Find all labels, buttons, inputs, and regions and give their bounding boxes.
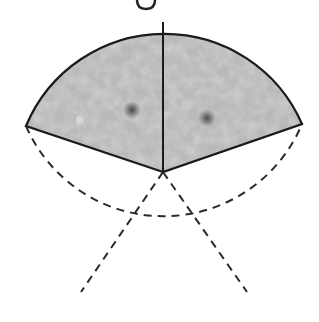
dark-spot-left: [123, 101, 141, 119]
sector-diagram: [0, 0, 319, 322]
top-glyph-fragment: [137, 0, 155, 9]
dark-spot-right: [198, 109, 216, 127]
dashed-radius-right: [163, 172, 247, 292]
filled-sectors: [0, 0, 319, 180]
dashed-radius-left: [81, 172, 163, 292]
